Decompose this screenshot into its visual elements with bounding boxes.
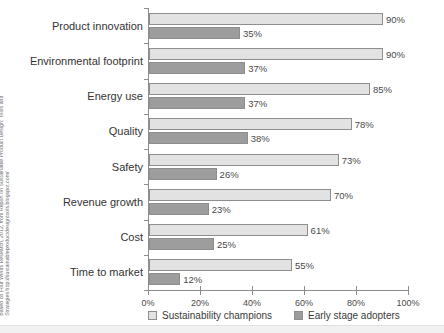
- bar-value-label: 37%: [248, 62, 267, 73]
- bottom-band: [0, 325, 444, 333]
- attribution-line-2: Strategies http://sustainableproductdesi…: [5, 0, 11, 316]
- bar-champions: 73%: [149, 154, 339, 166]
- bar-group: Environmental footprint90%37%: [149, 43, 408, 78]
- chart-legend: Sustainability championsEarly stage adop…: [148, 308, 444, 322]
- bar-value-label: 55%: [295, 260, 314, 271]
- bar-value-label: 35%: [243, 27, 262, 38]
- legend-swatch-icon: [148, 311, 157, 320]
- bar-value-label: 90%: [386, 13, 405, 24]
- attribution-note: Based on Four Winds Research, 2012, from…: [0, 0, 22, 318]
- bar-group: Revenue growth70%23%: [149, 184, 408, 219]
- plot-area: 0%20%40%60%80%100% Product innovation90%…: [148, 8, 408, 290]
- bar-value-label: 85%: [373, 84, 392, 95]
- bar-champions: 90%: [149, 13, 383, 25]
- bar-adopters: 38%: [149, 132, 248, 144]
- bar-adopters: 37%: [149, 62, 245, 74]
- x-axis-tick-label: 40%: [243, 298, 261, 308]
- bar-adopters: 12%: [149, 273, 180, 285]
- category-label: Revenue growth: [63, 196, 143, 208]
- bar-group: Safety73%26%: [149, 149, 408, 184]
- x-axis-line: [148, 290, 409, 291]
- bar-value-label: 70%: [334, 189, 353, 200]
- legend-item[interactable]: Early stage adopters: [294, 310, 400, 321]
- bar-adopters: 23%: [149, 203, 209, 215]
- bar-champions: 55%: [149, 259, 292, 271]
- legend-item[interactable]: Sustainability champions: [148, 310, 272, 321]
- x-axis-tick-label: 60%: [295, 298, 313, 308]
- bar-value-label: 78%: [355, 119, 374, 130]
- bar-value-label: 90%: [386, 48, 405, 59]
- bar-value-label: 12%: [183, 274, 202, 285]
- category-label: Quality: [109, 125, 143, 137]
- bar-champions: 85%: [149, 83, 370, 95]
- bar-group: Cost61%25%: [149, 220, 408, 255]
- bar-adopters: 25%: [149, 238, 214, 250]
- bar-adopters: 35%: [149, 27, 240, 39]
- bar-group: Time to market55%12%: [149, 255, 408, 290]
- x-axis-tick-label: 0%: [141, 298, 154, 308]
- bar-group: Quality78%38%: [149, 114, 408, 149]
- bar-group: Product innovation90%35%: [149, 8, 408, 43]
- bar-value-label: 23%: [212, 203, 231, 214]
- bar-value-label: 25%: [217, 239, 236, 250]
- bar-champions: 70%: [149, 189, 331, 201]
- bar-value-label: 37%: [248, 98, 267, 109]
- bar-value-label: 73%: [342, 154, 361, 165]
- bar-champions: 90%: [149, 48, 383, 60]
- bar-group: Energy use85%37%: [149, 79, 408, 114]
- bar-value-label: 61%: [311, 225, 330, 236]
- legend-label: Sustainability champions: [162, 310, 272, 321]
- legend-label: Early stage adopters: [308, 310, 400, 321]
- x-axis-tick-label: 20%: [191, 298, 209, 308]
- category-label: Safety: [112, 161, 143, 173]
- category-label: Time to market: [70, 266, 143, 278]
- chart-figure: Based on Four Winds Research, 2012, from…: [0, 0, 444, 333]
- category-label: Product innovation: [52, 20, 143, 32]
- category-label: Cost: [120, 231, 143, 243]
- attribution-rotated-text: Based on Four Winds Research, 2012, from…: [0, 0, 11, 316]
- bar-value-label: 38%: [251, 133, 270, 144]
- legend-swatch-icon: [294, 311, 303, 320]
- x-axis-tick: [408, 286, 409, 295]
- bar-adopters: 37%: [149, 97, 245, 109]
- category-label: Energy use: [87, 90, 143, 102]
- bar-champions: 78%: [149, 118, 352, 130]
- bar-champions: 61%: [149, 224, 308, 236]
- bar-value-label: 26%: [220, 168, 239, 179]
- x-axis-tick-label: 100%: [396, 298, 419, 308]
- bar-adopters: 26%: [149, 168, 217, 180]
- x-axis-tick-label: 80%: [347, 298, 365, 308]
- category-label: Environmental footprint: [30, 55, 143, 67]
